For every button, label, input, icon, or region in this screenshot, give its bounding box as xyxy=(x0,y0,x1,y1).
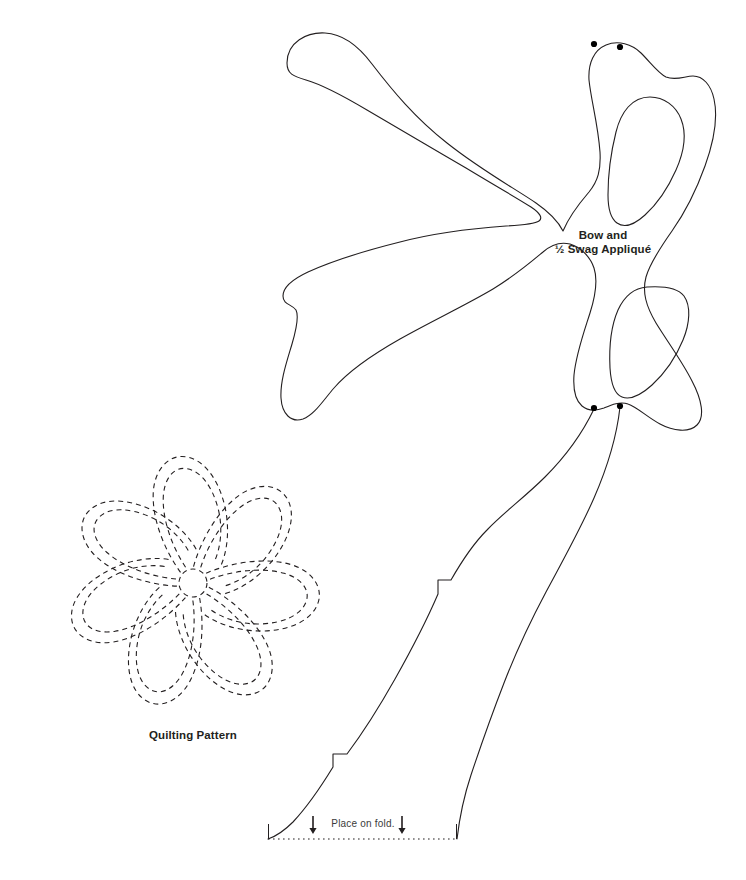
swag-inner-edge xyxy=(268,409,594,839)
flower-petal-4 xyxy=(162,577,289,712)
flower-petal-5-outer xyxy=(117,582,213,712)
place-on-fold-label: Place on fold. xyxy=(300,818,426,830)
pattern-sheet: Bow and ½ Swag Appliqué Quilting Pattern… xyxy=(0,0,746,880)
flower-petal-7-inner xyxy=(84,496,196,588)
registration-dot-top-right xyxy=(617,44,623,50)
bow-applique-label-line1: Bow and xyxy=(547,228,659,242)
bow-lower-loop-hole xyxy=(610,287,689,398)
flower-petal-5 xyxy=(117,582,213,712)
pattern-artwork xyxy=(0,0,746,880)
bow-applique-label: Bow and ½ Swag Appliqué xyxy=(547,228,659,256)
flower-center-circle xyxy=(179,569,207,597)
flower-petal-4-outer xyxy=(162,577,289,712)
registration-dot-top-left xyxy=(591,41,597,47)
flower-petal-3-outer xyxy=(202,560,320,632)
flower-petal-2-outer xyxy=(182,471,310,606)
bow-applique-group xyxy=(268,33,716,839)
swag-outer-edge xyxy=(457,407,620,839)
bow-upper-loop-hole xyxy=(608,97,684,225)
flower-petal-7-outer xyxy=(69,484,205,599)
registration-dot-bottom-right xyxy=(617,403,623,409)
flower-petal-4-inner xyxy=(171,587,274,698)
flower-petal-2-inner xyxy=(192,486,296,596)
flower-petal-3-inner xyxy=(208,569,307,624)
bow-applique-label-line2: ½ Swag Appliqué xyxy=(547,242,659,256)
flower-petal-2 xyxy=(182,471,310,606)
flower-petal-6-inner xyxy=(72,553,184,643)
flower-petal-7 xyxy=(69,484,205,599)
flower-quilting-group xyxy=(58,449,319,711)
quilting-pattern-label: Quilting Pattern xyxy=(113,728,273,742)
registration-dot-bottom-left xyxy=(591,405,597,411)
registration-dots-group xyxy=(591,41,623,411)
flower-petal-3 xyxy=(202,560,320,632)
